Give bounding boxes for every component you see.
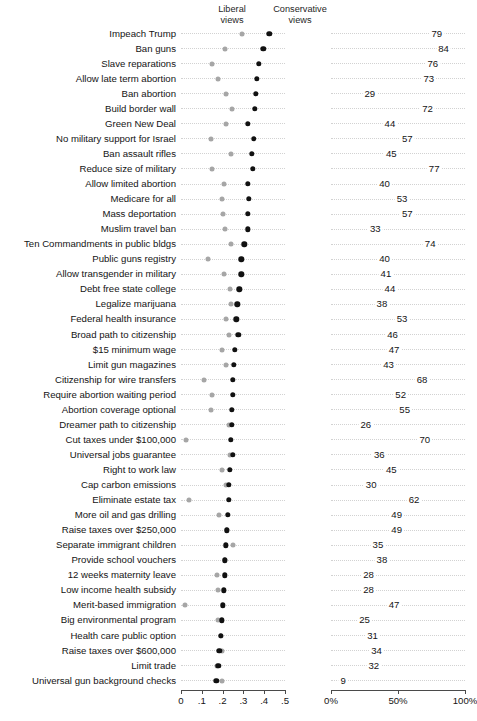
liberal-view-dot (228, 242, 233, 247)
row-label: Broad path to citizenship (71, 327, 176, 343)
liberal-view-dot (216, 76, 221, 81)
plot-row: Cap carbon emissions30 (0, 477, 473, 493)
row-label: Dreamer path to citizenship (59, 417, 176, 433)
plot-row: Universal gun background checks9 (0, 673, 473, 689)
conservative-view-dot (226, 497, 231, 502)
percent-value-label: 33 (368, 221, 383, 237)
conservative-view-dot (256, 61, 261, 66)
guide-line-left (181, 138, 285, 140)
liberal-view-dot (223, 317, 228, 322)
guide-line-right (331, 485, 465, 487)
conservative-view-dot (226, 482, 231, 487)
conservative-view-dot (267, 31, 272, 36)
guide-line-right (331, 500, 465, 502)
guide-line-left (181, 605, 285, 607)
row-label: 12 weeks maternity leave (68, 567, 176, 583)
percent-value-label: 28 (361, 567, 376, 583)
conservative-view-dot (250, 166, 255, 171)
row-label: Slave reparations (101, 56, 176, 72)
plot-row: Abortion coverage optional55 (0, 402, 473, 418)
row-label: Require abortion waiting period (43, 387, 176, 403)
conservative-view-dot (230, 392, 235, 397)
percent-value-label: 73 (421, 71, 436, 87)
row-label: Allow transgender in military (56, 266, 176, 282)
plot-row: Allow transgender in military41 (0, 266, 473, 282)
conservative-view-dot (218, 633, 223, 638)
percent-value-label: 40 (377, 251, 392, 267)
liberal-view-dot (223, 362, 228, 367)
plot-row: Raise taxes over $600,00034 (0, 643, 473, 659)
liberal-view-dot (210, 61, 215, 66)
row-label: Merit-based immigration (73, 597, 176, 613)
guide-line-left (181, 199, 285, 201)
conservative-view-dot (239, 272, 244, 277)
plot-row: Merit-based immigration47 (0, 597, 473, 613)
conservative-view-dot (224, 527, 229, 532)
liberal-view-dot (184, 437, 189, 442)
conservative-view-dot (245, 226, 250, 231)
liberal-view-dot (222, 46, 227, 51)
plot-row: Dreamer path to citizenship26 (0, 417, 473, 433)
plot-row: No military support for Israel57 (0, 131, 473, 147)
column-header-conservative-line2: views (262, 15, 338, 26)
conservative-view-dot (235, 332, 240, 337)
guide-line-left (181, 334, 285, 336)
percent-value-label: 25 (357, 612, 372, 628)
guide-line-right (331, 635, 465, 637)
conservative-view-dot (249, 151, 254, 156)
conservative-view-dot (230, 452, 235, 457)
percent-value-label: 34 (369, 643, 384, 659)
guide-line-right (331, 168, 465, 170)
percent-value-label: 44 (383, 281, 398, 297)
plot-row: Citizenship for wire transfers68 (0, 372, 473, 388)
percent-value-label: 62 (407, 492, 422, 508)
conservative-view-dot (222, 573, 227, 578)
conservative-view-dot (253, 91, 258, 96)
percent-value-label: 57 (400, 206, 415, 222)
plot-row: Muslim travel ban33 (0, 221, 473, 237)
guide-line-left (181, 575, 285, 577)
guide-line-right (331, 590, 465, 592)
guide-line-right (331, 274, 465, 276)
guide-line-left (181, 485, 285, 487)
guide-line-left (181, 650, 285, 652)
liberal-view-dot (183, 603, 188, 608)
guide-line-left (181, 469, 285, 471)
guide-line-right (331, 33, 465, 35)
conservative-view-dot (228, 437, 233, 442)
guide-line-right (331, 93, 465, 95)
guide-line-left (181, 500, 285, 502)
percent-value-label: 26 (358, 417, 373, 433)
conservative-view-dot (214, 678, 219, 683)
right-axis: 0%50%100% (0, 690, 473, 716)
row-label: Mass deportation (102, 206, 176, 222)
guide-line-right (331, 244, 465, 246)
guide-line-right (331, 560, 465, 562)
guide-line-left (181, 184, 285, 186)
percent-value-label: 70 (417, 432, 432, 448)
plot-row: Slave reparations76 (0, 56, 473, 72)
percent-value-label: 47 (387, 342, 402, 358)
percent-value-label: 49 (389, 522, 404, 538)
conservative-view-dot (216, 663, 221, 668)
plot-row: Build border wall72 (0, 101, 473, 117)
guide-line-right (331, 439, 465, 441)
plot-row: Right to work law45 (0, 462, 473, 478)
guide-line-right (331, 304, 465, 306)
plot-row: 12 weeks maternity leave28 (0, 567, 473, 583)
row-label: Allow late term abortion (76, 71, 176, 87)
row-label: Right to work law (103, 462, 176, 478)
percent-value-label: 30 (364, 477, 379, 493)
percent-value-label: 45 (384, 146, 399, 162)
percent-value-label: 47 (387, 597, 402, 613)
guide-line-right (331, 620, 465, 622)
row-label: Eliminate estate tax (92, 492, 176, 508)
guide-line-left (181, 515, 285, 517)
conservative-view-dot (245, 211, 250, 216)
guide-line-left (181, 635, 285, 637)
plot-row: Reduce size of military77 (0, 161, 473, 177)
percent-value-label: 74 (423, 236, 438, 252)
percent-value-label: 40 (377, 176, 392, 192)
percent-value-label: 77 (427, 161, 442, 177)
liberal-view-dot (206, 257, 211, 262)
